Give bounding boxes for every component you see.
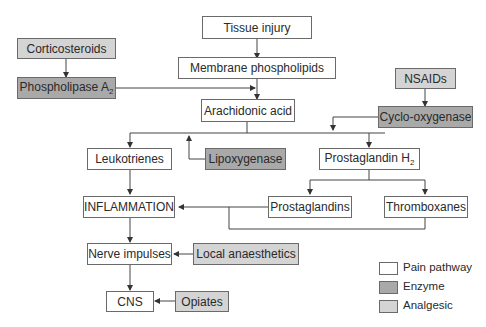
node-lipoxygenase: Lipoxygenase <box>205 148 286 170</box>
node-label: Leukotrienes <box>95 152 164 166</box>
node-label: Local anaesthetics <box>196 247 295 261</box>
node-nerve-impulses: Nerve impulses <box>87 243 172 265</box>
legend-label-enzyme: Enzyme <box>403 280 445 292</box>
node-label: Prostaglandins <box>270 200 349 214</box>
edge-cox-inhibit <box>333 117 378 130</box>
node-label: Arachidonic acid <box>204 104 292 118</box>
node-leukotrienes: Leukotrienes <box>87 148 172 170</box>
node-prostaglandin-h2: Prostaglandin H2 <box>319 148 420 170</box>
node-corticosteroids: Corticosteroids <box>17 38 116 59</box>
node-label: Nerve impulses <box>88 247 171 261</box>
node-arachidonic-acid: Arachidonic acid <box>201 99 295 122</box>
node-membrane-phospholipids: Membrane phospholipids <box>178 57 336 79</box>
node-phospholipase-a2: Phospholipase A2 <box>17 77 116 99</box>
edge-lipoxygenase-inhibit <box>189 136 205 159</box>
node-label: Opiates <box>181 295 222 309</box>
node-label: Lipoxygenase <box>208 152 282 166</box>
node-label-subscript: 2 <box>410 158 414 167</box>
node-label-subscript: 2 <box>109 87 113 96</box>
node-label: Phospholipase A2 <box>20 80 114 96</box>
legend-label-analgesic: Analgesic <box>403 299 453 311</box>
node-label: CNS <box>117 295 142 309</box>
legend-label-pain-pathway: Pain pathway <box>403 261 472 273</box>
node-label: Corticosteroids <box>26 42 106 56</box>
node-label: NSAIDs <box>404 72 447 86</box>
node-cns: CNS <box>106 291 154 312</box>
node-cyclo-oxygenase: Cyclo-oxygenase <box>378 106 473 128</box>
node-local-anaesthetics: Local anaesthetics <box>193 243 299 265</box>
node-label: INFLAMMATION <box>84 200 174 214</box>
node-label: Thromboxanes <box>386 200 466 214</box>
node-nsaids: NSAIDs <box>395 68 456 89</box>
legend-swatch-analgesic <box>379 300 398 313</box>
legend-swatch-pain-pathway <box>379 262 398 275</box>
node-tissue-injury: Tissue injury <box>202 16 312 39</box>
node-label: Cyclo-oxygenase <box>379 110 471 124</box>
node-label: Membrane phospholipids <box>190 61 324 75</box>
node-inflammation: INFLAMMATION <box>83 196 175 218</box>
node-label: Prostaglandin H2 <box>325 151 415 167</box>
legend-swatch-enzyme <box>379 281 398 294</box>
node-prostaglandins: Prostaglandins <box>268 196 352 218</box>
node-thromboxanes: Thromboxanes <box>384 196 468 218</box>
node-label-main: Prostaglandin H <box>325 151 410 165</box>
node-label: Tissue injury <box>224 21 291 35</box>
node-label-main: Phospholipase A <box>20 80 109 94</box>
node-opiates: Opiates <box>175 291 229 312</box>
